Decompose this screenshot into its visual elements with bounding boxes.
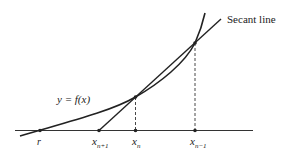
x-n-plus-1-label: xn+1 — [91, 135, 109, 150]
x-n-minus-1-sub: n−1 — [195, 142, 207, 150]
point-x-n-minus-1 — [193, 129, 197, 133]
secant-line — [99, 19, 221, 131]
x-n-minus-1-label: xn−1 — [189, 135, 207, 150]
point-x-n-plus-1 — [97, 129, 101, 133]
secant-method-diagram: Secant line y = f(x) r xn+1 xn xn−1 — [0, 0, 292, 157]
secant-line-label: Secant line — [227, 13, 276, 25]
x-n-label: xn — [131, 135, 141, 150]
point-f-xn-1 — [193, 41, 197, 45]
root-label: r — [37, 136, 41, 147]
point-x-n — [134, 129, 138, 133]
function-label: y = f(x) — [56, 93, 90, 106]
point-f-xn — [134, 95, 138, 99]
point-root — [38, 129, 42, 133]
x-n-sub: n — [137, 142, 141, 150]
x-n-plus-1-sub: n+1 — [97, 142, 109, 150]
